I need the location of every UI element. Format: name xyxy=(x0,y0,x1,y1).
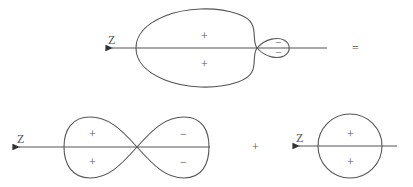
sign-small-lower: − xyxy=(275,46,281,58)
sign-s-upper: + xyxy=(347,127,354,141)
sign-s-lower: + xyxy=(347,155,354,169)
orbital-diagram: Z + + − − = Z + + − − + Z + + xyxy=(0,0,413,187)
hybrid-orbital xyxy=(112,9,327,87)
z-label-top: Z xyxy=(108,33,115,47)
sign-p-left-upper: + xyxy=(89,127,96,141)
sign-p-right-lower: − xyxy=(180,155,187,169)
z-label-s: Z xyxy=(296,131,303,145)
plus-sign: + xyxy=(252,140,259,154)
sign-p-left-lower: + xyxy=(89,155,96,169)
sign-large-upper: + xyxy=(201,29,208,43)
sign-p-right-upper: − xyxy=(180,127,187,141)
equals-sign: = xyxy=(352,41,359,55)
sign-large-lower: + xyxy=(201,57,208,71)
z-label-p: Z xyxy=(17,132,24,146)
